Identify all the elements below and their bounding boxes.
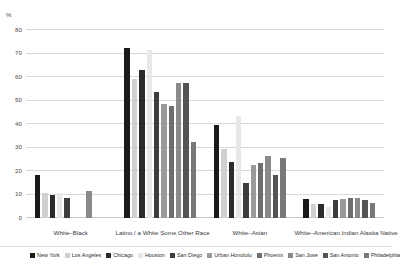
legend-item[interactable]: San Jose xyxy=(288,253,317,258)
bar xyxy=(326,207,331,218)
bar xyxy=(221,149,226,218)
x-axis-category-label: Latino / a White Some Other Race xyxy=(116,230,206,236)
bar xyxy=(243,183,248,218)
legend-label: San Diego xyxy=(177,253,202,258)
bar xyxy=(236,116,241,218)
legend-item[interactable]: Los Angeles xyxy=(65,253,101,258)
bar xyxy=(370,203,375,218)
legend-label: Philadelphia xyxy=(371,253,400,258)
legend-label: San Antonio xyxy=(330,253,359,258)
bar xyxy=(169,106,174,218)
bar xyxy=(303,199,308,218)
legend-swatch-icon xyxy=(65,253,70,258)
bar xyxy=(176,83,181,218)
y-tick-label-20: 20 xyxy=(0,168,22,174)
bar xyxy=(318,204,323,218)
x-axis-category-label: White–Asian xyxy=(205,230,295,236)
legend-item[interactable]: New York xyxy=(30,253,60,258)
x-axis-category-label: White–American Indian Alaska Native xyxy=(295,230,385,236)
bar xyxy=(229,162,234,218)
chart-legend: New YorkLos AngelesChicagoHoustonSan Die… xyxy=(30,253,386,258)
plot-area xyxy=(26,30,384,218)
legend-label: San Jose xyxy=(295,253,317,258)
bar xyxy=(147,50,152,218)
bar-group xyxy=(34,30,108,218)
legend-swatch-icon xyxy=(288,253,293,258)
bar-group xyxy=(303,30,377,218)
legend-label: Urban Honolulu xyxy=(214,253,251,258)
bar xyxy=(251,165,256,218)
bar xyxy=(139,70,144,218)
legend-swatch-icon xyxy=(323,253,328,258)
y-axis-unit-label: % xyxy=(6,12,12,18)
legend-item[interactable]: San Antonio xyxy=(323,253,359,258)
bar-group xyxy=(124,30,198,218)
legend-swatch-icon xyxy=(30,253,35,258)
legend-label: Phoenix xyxy=(264,253,283,258)
legend-item[interactable]: Chicago xyxy=(106,253,133,258)
legend-divider xyxy=(0,246,392,247)
bar xyxy=(333,200,338,218)
bar xyxy=(340,199,345,218)
bar xyxy=(280,158,285,218)
y-tick-label-50: 50 xyxy=(0,97,22,103)
bar xyxy=(64,198,69,218)
legend-label: Chicago xyxy=(113,253,133,258)
bar xyxy=(362,200,367,218)
bar xyxy=(86,191,91,218)
y-tick-label-30: 30 xyxy=(0,144,22,150)
legend-item[interactable]: Houston xyxy=(138,253,165,258)
y-tick-label-10: 10 xyxy=(0,191,22,197)
legend-label: Los Angeles xyxy=(72,253,101,258)
bar xyxy=(265,156,270,218)
bar xyxy=(42,193,47,218)
bar xyxy=(183,83,188,218)
bar xyxy=(132,79,137,218)
y-tick-label-40: 40 xyxy=(0,121,22,127)
y-tick-label-80: 80 xyxy=(0,27,22,33)
bar xyxy=(311,204,316,218)
legend-swatch-icon xyxy=(170,253,175,258)
x-axis-category-label: White–Black xyxy=(26,230,116,236)
legend-label: New York xyxy=(37,253,60,258)
legend-swatch-icon xyxy=(138,253,143,258)
bar xyxy=(258,163,263,218)
bar xyxy=(161,104,166,218)
legend-swatch-icon xyxy=(106,253,111,258)
bar xyxy=(355,198,360,218)
legend-swatch-icon xyxy=(207,253,212,258)
legend-item[interactable]: San Diego xyxy=(170,253,202,258)
bar xyxy=(154,92,159,218)
bar xyxy=(273,175,278,218)
bar xyxy=(50,195,55,219)
legend-swatch-icon xyxy=(364,253,369,258)
y-tick-label-70: 70 xyxy=(0,50,22,56)
legend-label: Houston xyxy=(145,253,165,258)
legend-item[interactable]: Phoenix xyxy=(257,253,283,258)
legend-item[interactable]: Philadelphia xyxy=(364,253,400,258)
bar xyxy=(191,142,196,218)
y-tick-label-0: 0 xyxy=(0,215,22,221)
bar xyxy=(35,175,40,218)
bar-group xyxy=(213,30,287,218)
bar xyxy=(348,198,353,218)
bar xyxy=(57,193,62,218)
legend-item[interactable]: Urban Honolulu xyxy=(207,253,251,258)
legend-swatch-icon xyxy=(257,253,262,258)
bar xyxy=(214,125,219,218)
y-tick-label-60: 60 xyxy=(0,74,22,80)
bar xyxy=(124,48,129,218)
